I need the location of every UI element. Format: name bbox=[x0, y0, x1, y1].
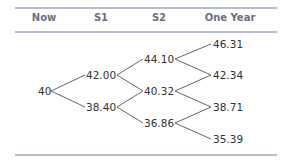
bottom-rule bbox=[15, 154, 277, 156]
branch-s2b-up bbox=[175, 75, 211, 91]
branch-s1-down-down bbox=[117, 107, 143, 123]
branch-s1-up-down bbox=[117, 75, 143, 91]
branch-s1-up-up bbox=[117, 59, 143, 75]
node-year-4: 35.39 bbox=[213, 134, 243, 145]
node-s1-up: 42.00 bbox=[86, 70, 116, 81]
node-s2-down: 36.86 bbox=[144, 118, 174, 129]
branch-now-up bbox=[51, 75, 85, 91]
node-s2-up: 44.10 bbox=[144, 54, 174, 65]
node-s1-down: 38.40 bbox=[86, 102, 116, 113]
binomial-tree-branches bbox=[0, 0, 292, 163]
branch-s2a-up bbox=[175, 44, 211, 59]
node-year-1: 46.31 bbox=[213, 39, 243, 50]
branch-s1-down-up bbox=[117, 91, 143, 107]
branch-s2c-up bbox=[175, 107, 211, 123]
node-year-2: 42.34 bbox=[213, 70, 243, 81]
node-year-3: 38.71 bbox=[213, 102, 243, 113]
branch-now-down bbox=[51, 91, 85, 107]
branch-s2c-down bbox=[175, 123, 211, 139]
branch-s2b-down bbox=[175, 91, 211, 107]
node-now: 40 bbox=[38, 86, 51, 97]
node-s2-mid: 40.32 bbox=[144, 86, 174, 97]
branch-s2a-down bbox=[175, 59, 211, 75]
